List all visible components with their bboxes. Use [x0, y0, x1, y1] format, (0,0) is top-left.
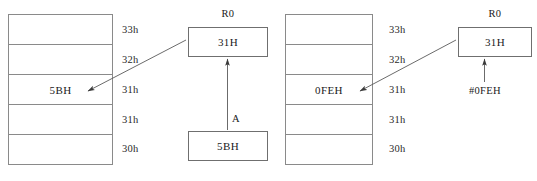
memory-cell-value: 0FEH	[315, 84, 343, 96]
source-box-accumulator-left: 5BH	[188, 131, 268, 161]
memory-row: 5BH	[9, 75, 112, 105]
register-box-r0-right: 31H	[458, 27, 532, 57]
register-box-r0-left: 31H	[188, 27, 268, 57]
accumulator-label-left: A	[232, 113, 240, 124]
memory-table-right: 0FEH	[285, 14, 373, 165]
memory-row	[9, 45, 112, 75]
memory-row	[286, 105, 372, 135]
address-label: 32h	[385, 44, 431, 74]
address-label: 30h	[118, 134, 164, 163]
diagram-canvas: 5BH 33h 32h 31h 31h 30h R0 31H A 5BH 0FE…	[0, 0, 537, 181]
address-label: 31h	[385, 104, 431, 134]
address-label: 30h	[385, 134, 431, 163]
register-caption-r0-left: R0	[188, 8, 268, 19]
memory-row	[286, 15, 372, 45]
address-column-right: 33h 32h 31h 31h 30h	[385, 14, 431, 165]
address-label: 32h	[118, 44, 164, 74]
address-label: 33h	[118, 14, 164, 44]
memory-cell-value: 5BH	[50, 84, 72, 96]
memory-row	[9, 135, 112, 164]
memory-row: 0FEH	[286, 75, 372, 105]
address-label: 33h	[385, 14, 431, 44]
address-label: 31h	[118, 104, 164, 134]
memory-row	[9, 15, 112, 45]
memory-table-left: 5BH	[8, 14, 113, 165]
memory-row	[286, 135, 372, 164]
register-caption-r0-right: R0	[458, 8, 532, 19]
immediate-operand-label-right: #0FEH	[469, 85, 501, 96]
address-label: 31h	[118, 74, 164, 104]
address-label: 31h	[385, 74, 431, 104]
memory-row	[286, 45, 372, 75]
memory-row	[9, 105, 112, 135]
address-column-left: 33h 32h 31h 31h 30h	[118, 14, 164, 165]
